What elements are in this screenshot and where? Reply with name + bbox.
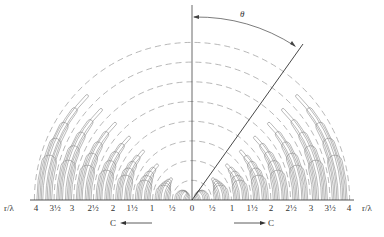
tick-left-7: ½ [169, 203, 176, 213]
tick-center: 0 [190, 203, 195, 213]
tick-right-1: 1 [230, 203, 235, 213]
tick-right-7: 4 [347, 203, 352, 213]
theta-arrowhead-left [193, 15, 199, 19]
tick-left-5: 1½ [126, 203, 137, 213]
theta-label: θ [240, 9, 244, 19]
tick-left-0: 4 [34, 203, 39, 213]
arrow-right-label: C [268, 218, 274, 228]
tick-left-3: 2½ [87, 203, 98, 213]
tick-left-4: 2 [111, 203, 116, 213]
axis-unit-right: r/λ [362, 203, 372, 213]
axis-unit-left: r/λ [4, 203, 14, 213]
arrow-left-head [120, 221, 126, 225]
theta-angle-arc [194, 17, 295, 46]
tick-right-3: 2 [269, 203, 274, 213]
theta-arrowhead-right [290, 41, 296, 47]
tick-left-2: 3 [70, 203, 75, 213]
field-line-diagram [0, 0, 384, 237]
tick-right-2: 1½ [246, 203, 257, 213]
arrow-right-head [260, 221, 266, 225]
tick-right-5: 3 [309, 203, 314, 213]
tick-right-4: 2½ [285, 203, 296, 213]
tick-right-6: 3½ [324, 203, 335, 213]
tick-left-1: 3½ [49, 203, 60, 213]
tick-left-6: 1 [150, 203, 155, 213]
tick-right-0: ½ [209, 203, 216, 213]
arrow-left-label: C [110, 218, 116, 228]
theta-radius-line [192, 44, 303, 200]
